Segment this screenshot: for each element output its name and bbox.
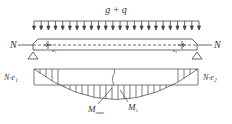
moment-right-label: N·e₂ [202, 73, 217, 82]
m1-label: M1 [127, 102, 138, 113]
mmax-label: Mmax [87, 104, 105, 115]
eccentricity-right-label: e₂ [173, 48, 177, 53]
beam-moment-diagram: g + q N N e₁ e₂ N·e₁ [0, 0, 232, 124]
eccentricity-left-label: e₁ [52, 48, 56, 53]
eccentric-marker-right [178, 41, 186, 49]
distributed-load [33, 21, 201, 30]
support-right-icon [192, 52, 202, 59]
eccentric-marker-left [44, 41, 52, 49]
axial-force-left-label: N [9, 39, 18, 50]
axial-force-right-label: N [213, 39, 222, 50]
moment-left-label: N·e₁ [3, 73, 18, 82]
moment-diagram [34, 69, 198, 104]
support-left-icon [28, 52, 38, 59]
load-label: g + q [105, 4, 127, 15]
